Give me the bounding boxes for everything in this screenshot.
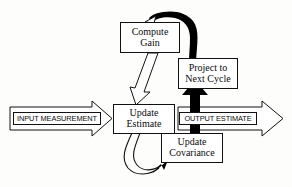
node-update-covariance[interactable]: Update Covariance	[161, 133, 223, 163]
estimate-to-covariance-curve	[124, 133, 159, 174]
io-label-input-measurement: INPUT MEASUREMENT	[13, 112, 101, 125]
node-project-next-cycle[interactable]: Project to Next Cycle	[178, 58, 238, 89]
estimate-to-covariance-curve-2	[134, 133, 161, 170]
io-label-output-estimate: OUTPUT ESTIMATE	[179, 112, 257, 125]
node-compute-gain[interactable]: Compute Gain	[120, 22, 180, 53]
node-update-covariance-line-2: Covariance	[169, 148, 215, 159]
io-label-output-estimate-text: OUTPUT ESTIMATE	[184, 114, 251, 123]
node-compute-gain-line-2: Gain	[140, 38, 159, 49]
node-project-next-cycle-line-1: Project to	[189, 63, 228, 74]
diagram-canvas: Compute Gain Project to Next Cycle Updat…	[0, 0, 292, 187]
node-update-estimate[interactable]: Update Estimate	[113, 104, 175, 134]
node-project-next-cycle-line-2: Next Cycle	[185, 74, 230, 85]
node-compute-gain-line-1: Compute	[132, 27, 169, 38]
gain-to-estimate-arrow	[130, 53, 158, 105]
io-label-input-measurement-text: INPUT MEASUREMENT	[17, 114, 97, 123]
node-update-estimate-line-2: Estimate	[127, 119, 162, 130]
